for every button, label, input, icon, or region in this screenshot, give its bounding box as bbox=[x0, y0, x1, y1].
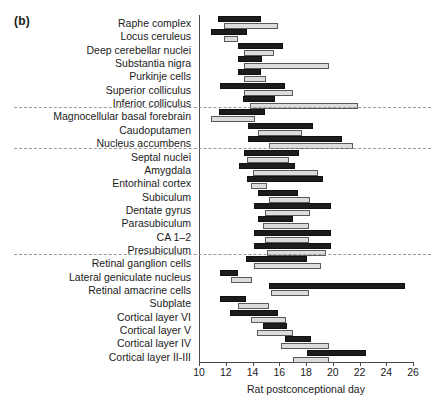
bar-dark bbox=[258, 190, 298, 196]
bar-dark bbox=[263, 323, 287, 329]
bar-dark bbox=[219, 109, 264, 115]
bar-light bbox=[293, 357, 329, 363]
x-tick-label: 26 bbox=[407, 366, 419, 378]
bar-dark bbox=[220, 83, 284, 89]
bar-dark bbox=[220, 296, 245, 302]
plot-area: 101214161820222426 Raphe complexLocus ce… bbox=[0, 0, 445, 418]
bar-dark bbox=[246, 256, 308, 262]
bar-dark bbox=[243, 96, 275, 102]
bar-dark bbox=[238, 56, 262, 62]
bar-dark bbox=[307, 350, 366, 356]
bar-row: Cortical layer II-III bbox=[0, 349, 445, 365]
x-tick-label: 14 bbox=[247, 366, 259, 378]
x-tick-label: 24 bbox=[380, 366, 392, 378]
x-axis-title: Rat postconceptional day bbox=[199, 383, 413, 395]
bar-dark bbox=[220, 270, 237, 276]
x-tick-label: 20 bbox=[327, 366, 339, 378]
bar-dark bbox=[254, 230, 332, 236]
group-separator bbox=[14, 254, 431, 255]
bar-dark bbox=[258, 216, 293, 222]
bar-dark bbox=[254, 203, 332, 209]
category-label: Cortical layer II-III bbox=[109, 349, 191, 365]
bar-dark bbox=[248, 136, 342, 142]
bar-dark bbox=[248, 123, 312, 129]
bar-dark bbox=[269, 283, 405, 289]
bar-dark bbox=[238, 43, 283, 49]
x-tick-label: 12 bbox=[220, 366, 232, 378]
bar-dark bbox=[244, 150, 299, 156]
group-separator bbox=[14, 148, 431, 149]
x-tick-label: 22 bbox=[354, 366, 366, 378]
bar-dark bbox=[254, 243, 332, 249]
figure-panel: (b) 101214161820222426 Raphe complexLocu… bbox=[0, 0, 445, 418]
bar-dark bbox=[230, 310, 278, 316]
bar-dark bbox=[218, 16, 261, 22]
x-tick-label: 18 bbox=[300, 366, 312, 378]
bar-dark bbox=[211, 29, 247, 35]
x-tick-label: 16 bbox=[273, 366, 285, 378]
group-separator bbox=[14, 107, 431, 108]
bar-dark bbox=[285, 336, 312, 342]
x-tick-label: 10 bbox=[193, 366, 205, 378]
bar-dark bbox=[238, 69, 261, 75]
bar-dark bbox=[247, 176, 323, 182]
bar-dark bbox=[239, 163, 295, 169]
